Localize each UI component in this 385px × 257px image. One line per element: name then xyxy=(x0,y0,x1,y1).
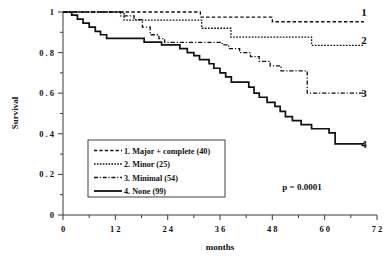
survival-chart-figure: 0 0 . 2 0 . 4 0 . 6 0 . 8 1 0 1 2 xyxy=(0,0,385,257)
series-end-label-2: 2 xyxy=(361,34,367,46)
y-tick-label: 0 xyxy=(50,210,54,220)
y-tick-label: 1 xyxy=(50,7,54,17)
x-tick-label: 2 4 xyxy=(162,224,173,234)
x-tick-label: 6 0 xyxy=(319,224,330,234)
x-tick-label: 4 8 xyxy=(267,224,278,234)
x-axis-ticks xyxy=(63,215,377,220)
curves-group xyxy=(63,12,364,144)
y-axis-title: Survival xyxy=(10,96,20,129)
legend-label-1: 1. Major + complete (40) xyxy=(124,147,210,156)
survival-curve-4 xyxy=(63,12,364,144)
legend: 1. Major + complete (40) 2. Minor (25) 3… xyxy=(88,140,225,197)
x-tick-label: 1 2 xyxy=(110,224,121,234)
survival-curve-1 xyxy=(63,12,364,22)
x-tick-label: 3 6 xyxy=(215,224,226,234)
x-tick-label: 7 2 xyxy=(372,224,383,234)
series-end-label-4: 4 xyxy=(361,138,367,150)
y-tick-label: 0 . 2 xyxy=(39,169,54,179)
legend-label-3: 3. Minimal (54) xyxy=(124,174,178,183)
y-tick-label: 0 . 8 xyxy=(39,48,54,58)
chart-canvas: 0 0 . 2 0 . 4 0 . 6 0 . 8 1 0 1 2 xyxy=(0,0,385,257)
legend-label-2: 2. Minor (25) xyxy=(124,160,170,169)
y-tick-label: 0 . 4 xyxy=(39,129,55,139)
survival-curve-3 xyxy=(63,12,364,93)
x-tick-label: 0 xyxy=(61,224,65,234)
x-axis-title: months xyxy=(206,242,235,252)
series-end-labels: 1 2 3 4 xyxy=(361,6,367,150)
p-value-annotation: p = 0.0001 xyxy=(282,182,322,192)
legend-label-4: 4. None (99) xyxy=(124,187,166,196)
y-tick-labels: 0 0 . 2 0 . 4 0 . 6 0 . 8 1 xyxy=(39,7,55,220)
y-axis-ticks xyxy=(58,12,63,215)
x-tick-labels: 0 1 2 2 4 3 6 4 8 6 0 7 2 xyxy=(61,224,382,234)
series-end-label-1: 1 xyxy=(361,6,367,18)
series-end-label-3: 3 xyxy=(361,87,367,99)
y-tick-label: 0 . 6 xyxy=(39,88,54,98)
